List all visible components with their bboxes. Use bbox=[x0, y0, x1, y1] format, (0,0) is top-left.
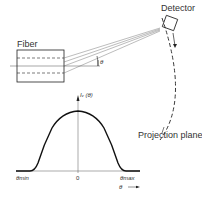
ray-4 bbox=[64, 31, 160, 73]
theta-min-label: θmin bbox=[16, 175, 29, 181]
ray-2 bbox=[64, 29, 160, 62]
detector-box bbox=[162, 15, 177, 30]
ray-3 bbox=[64, 30, 160, 66]
projection-plane-label: Projection plane bbox=[138, 131, 202, 140]
diagram-canvas bbox=[0, 0, 202, 198]
theta-axis-label: θ bbox=[119, 184, 122, 190]
zero-label: 0 bbox=[76, 175, 79, 181]
ray-1 bbox=[64, 28, 160, 58]
fiber-label: Fiber bbox=[17, 40, 38, 49]
detector-motion-arrow-icon bbox=[173, 44, 177, 48]
angle-theta-label: θ bbox=[100, 59, 103, 65]
intensity-axis-label: Iᵥ (θ) bbox=[80, 92, 93, 98]
theta-max-label: θmax bbox=[120, 175, 135, 181]
fiber-scattering-diagram: Fiber Detector Projection plane θ Iᵥ (θ)… bbox=[0, 0, 202, 198]
detector-label: Detector bbox=[161, 4, 195, 13]
theta-axis-arrow-icon bbox=[136, 186, 140, 188]
